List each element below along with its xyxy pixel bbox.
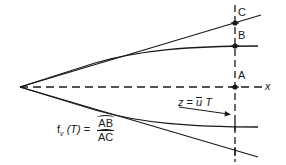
formula-fraction: AB AC <box>97 118 114 143</box>
point-a-label: A <box>238 70 245 81</box>
upper-curve <box>20 46 258 87</box>
lower-curve <box>20 87 258 127</box>
formula-subscript: v <box>60 130 64 137</box>
formula-denominator: AC <box>97 131 114 143</box>
position-arrow <box>179 107 228 114</box>
upper-envelope-line <box>20 15 261 87</box>
x-axis-label: x <box>265 81 271 92</box>
arrow-head-icon <box>225 111 232 117</box>
diagram-canvas <box>0 0 286 165</box>
position-label: z = u T <box>178 97 212 108</box>
formula-lhs: fv (T) = <box>57 124 90 137</box>
position-u-bar: u <box>196 97 202 108</box>
formula-arg: (T) <box>67 123 81 135</box>
position-t: T <box>205 96 212 108</box>
position-eq: = <box>187 96 193 108</box>
position-z: z <box>178 96 184 108</box>
point-b-label: B <box>238 30 245 41</box>
formula-eq: = <box>84 123 90 135</box>
point-c-label: C <box>238 7 246 18</box>
